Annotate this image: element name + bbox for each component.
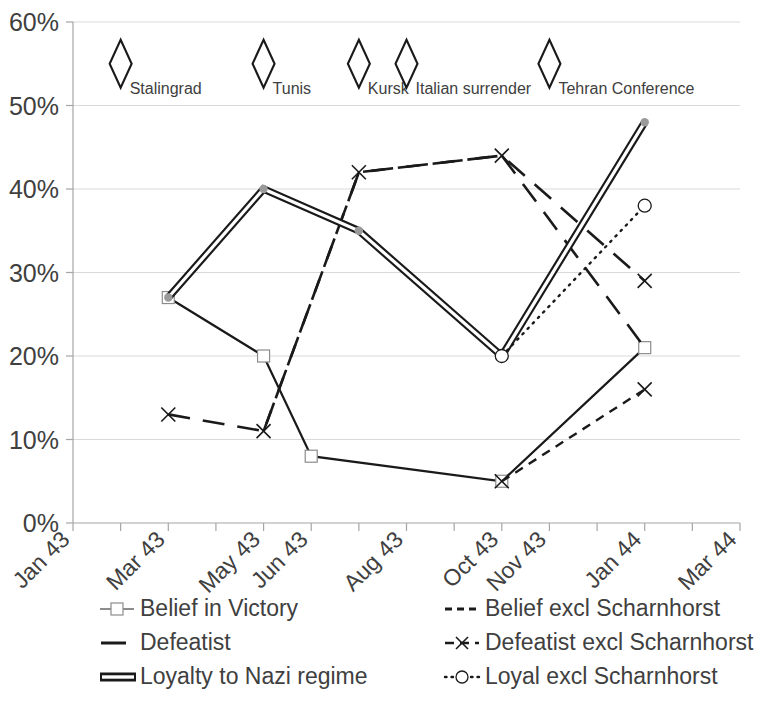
legend-entry-defeatist-excl-scharnhorst[interactable]: Defeatist excl Scharnhorst: [445, 629, 754, 655]
x-tick-label: Mar 43: [101, 526, 170, 595]
data-point-square: [639, 342, 651, 354]
series-line: [168, 156, 644, 432]
annotation-label: Italian surrender: [416, 80, 532, 97]
legend-label: Defeatist: [140, 629, 231, 655]
series-belief-in-victory: [162, 292, 650, 488]
data-point-square: [258, 350, 270, 362]
series-loyal-excl-scharnhorst: [495, 199, 651, 362]
y-tick-label: 30%: [9, 259, 59, 287]
chart-legend[interactable]: Belief in VictoryBelief excl Scharnhorst…: [100, 595, 754, 689]
data-point-square: [305, 450, 317, 462]
legend-label: Defeatist excl Scharnhorst: [485, 629, 754, 655]
annotation-label: Tunis: [273, 80, 312, 97]
annotation-kursk: Kursk: [348, 40, 410, 97]
chart-container: 0%10%20%30%40%50%60% Jan 43Mar 43May 43J…: [0, 0, 771, 710]
legend-entry-belief-in-victory[interactable]: Belief in Victory: [100, 595, 299, 621]
diamond-icon: [538, 40, 560, 88]
legend-label: Belief excl Scharnhorst: [485, 595, 721, 621]
x-tick-label-group: Mar 44: [673, 526, 742, 595]
legend-label: Loyalty to Nazi regime: [140, 663, 368, 689]
y-axis: [66, 22, 73, 523]
y-tick-label: 50%: [9, 92, 59, 120]
x-tick-labels: Jan 43Mar 43May 43Jun 43Aug 43Oct 43Nov …: [7, 526, 741, 598]
diamond-icon: [253, 40, 275, 88]
data-point-vertex: [355, 227, 363, 235]
legend-marker-icon: [445, 637, 479, 649]
x-tick-label-group: Aug 43: [338, 526, 408, 596]
series-defeatist: [264, 156, 645, 432]
y-tick-labels: 0%10%20%30%40%50%60%: [9, 8, 59, 537]
series-line: [264, 156, 645, 432]
annotation-label: Tehran Conference: [558, 80, 694, 97]
data-point-vertex: [259, 185, 267, 193]
event-annotations: StalingradTunisKurskItalian surrenderTeh…: [110, 40, 695, 97]
y-tick-label: 20%: [9, 342, 59, 370]
series-line: [502, 389, 645, 481]
series-line: [168, 298, 644, 482]
series-line-inner: [168, 122, 644, 356]
data-series: [161, 118, 651, 488]
x-tick-label: Aug 43: [338, 526, 408, 596]
legend-label: Belief in Victory: [140, 595, 299, 621]
x-tick-label: Mar 44: [673, 526, 742, 595]
x-axis: [73, 523, 740, 531]
y-tick-label: 40%: [9, 175, 59, 203]
x-tick-label: Jan 44: [579, 526, 646, 593]
series-line: [502, 206, 645, 356]
legend-marker-icon: [445, 671, 479, 683]
diamond-icon: [348, 40, 370, 88]
data-point-vertex: [164, 293, 172, 301]
x-tick-label-group: Jan 44: [579, 526, 646, 593]
series-belief-excl-scharnhorst: [495, 382, 652, 488]
legend-label: Loyal excl Scharnhorst: [485, 663, 718, 689]
legend-entry-loyalty-to-nazi-regime[interactable]: Loyalty to Nazi regime: [100, 663, 368, 689]
series-loyalty-to-nazi-regime: [164, 118, 649, 360]
x-tick-label: May 43: [193, 526, 265, 598]
annotation-stalingrad: Stalingrad: [110, 40, 202, 97]
data-point-circle: [638, 199, 651, 212]
legend-entry-loyal-excl-scharnhorst[interactable]: Loyal excl Scharnhorst: [445, 663, 718, 689]
y-tick-label: 60%: [9, 8, 59, 36]
legend-marker-icon: [100, 603, 134, 615]
y-tick-label: 10%: [9, 426, 59, 454]
annotation-label: Stalingrad: [130, 80, 202, 97]
legend-entry-belief-excl-scharnhorst[interactable]: Belief excl Scharnhorst: [445, 595, 721, 621]
legend-entry-defeatist[interactable]: Defeatist: [101, 629, 231, 655]
annotation-tunis: Tunis: [253, 40, 312, 97]
series-defeatist-excl-scharnhorst: [161, 149, 651, 439]
annotation-tehran-conference: Tehran Conference: [538, 40, 694, 97]
data-point-x: [638, 274, 652, 288]
annotation-italian-surrender: Italian surrender: [396, 40, 532, 97]
line-chart: 0%10%20%30%40%50%60% Jan 43Mar 43May 43J…: [0, 0, 771, 710]
data-point-vertex: [641, 118, 649, 126]
data-point-x: [638, 382, 652, 396]
x-tick-label-group: Mar 43: [101, 526, 170, 595]
diamond-icon: [110, 40, 132, 88]
x-tick-label-group: May 43: [193, 526, 265, 598]
data-point-circle: [495, 350, 508, 363]
